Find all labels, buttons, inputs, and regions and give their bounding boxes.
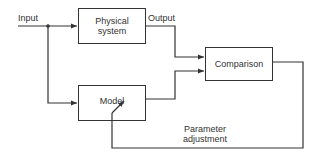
model-label: Model	[100, 96, 125, 106]
comparison-block: Comparison	[205, 47, 273, 81]
output-to-comparison-arrow	[145, 26, 204, 57]
model-block: Model	[78, 85, 146, 121]
physical-system-label-line1: Physical	[95, 16, 129, 26]
parameter-adjustment-label: Parameter adjustment	[175, 124, 235, 144]
physical-system-label-line2: system	[98, 26, 127, 36]
parameter-adjustment-line2: adjustment	[175, 134, 235, 144]
model-to-comparison-arrow	[145, 71, 204, 99]
junction-dot	[46, 24, 50, 28]
output-label: Output	[148, 13, 175, 23]
input-label: Input	[18, 13, 38, 23]
input-to-model-arrow	[48, 26, 77, 103]
parameter-adjustment-line1: Parameter	[175, 124, 235, 134]
comparison-label: Comparison	[215, 59, 264, 69]
physical-system-block: Physical system	[78, 8, 146, 44]
